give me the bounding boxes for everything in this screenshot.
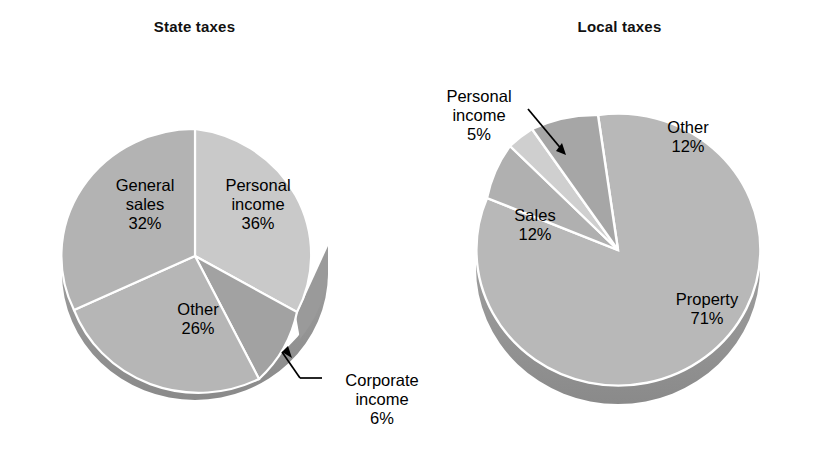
label-local-other-name: Other <box>650 118 726 137</box>
label-local-property-value: 71% <box>655 309 759 328</box>
label-local-personal-value: 5% <box>424 125 534 144</box>
label-state-corporate-line1: Corporate <box>322 371 442 390</box>
label-state-corporate-income: Corporate income 6% <box>322 371 442 428</box>
label-local-other-value: 12% <box>650 137 726 156</box>
label-state-other-value: 26% <box>156 319 240 338</box>
label-state-personal-income-value: 36% <box>204 214 312 233</box>
label-local-property-name: Property <box>655 290 759 309</box>
pie-chart-figure: State taxes Local taxes <box>0 0 833 475</box>
label-state-personal-income-line2: income <box>204 195 312 214</box>
local-taxes-title: Local taxes <box>487 18 752 35</box>
label-local-sales: Sales 12% <box>497 206 573 244</box>
label-local-sales-name: Sales <box>497 206 573 225</box>
corporate-income-callout-arrow <box>282 346 322 378</box>
label-state-corporate-value: 6% <box>322 409 442 428</box>
label-state-personal-income-line1: Personal <box>204 176 312 195</box>
label-local-personal-line1: Personal <box>424 87 534 106</box>
label-state-personal-income: Personal income 36% <box>204 176 312 233</box>
label-state-general-sales-line2: sales <box>92 195 198 214</box>
label-local-sales-value: 12% <box>497 225 573 244</box>
label-local-property: Property 71% <box>655 290 759 328</box>
label-state-general-sales: General sales 32% <box>92 176 198 233</box>
label-state-general-sales-value: 32% <box>92 214 198 233</box>
label-state-other-name: Other <box>156 300 240 319</box>
state-taxes-title: State taxes <box>62 18 327 35</box>
label-state-other: Other 26% <box>156 300 240 338</box>
label-state-general-sales-line1: General <box>92 176 198 195</box>
label-local-personal-line2: income <box>424 106 534 125</box>
label-local-personal-income: Personal income 5% <box>424 87 534 144</box>
label-local-other: Other 12% <box>650 118 726 156</box>
state-pie-rim-right <box>296 246 328 339</box>
label-state-corporate-line2: income <box>322 390 442 409</box>
state-taxes-pie <box>61 129 328 400</box>
